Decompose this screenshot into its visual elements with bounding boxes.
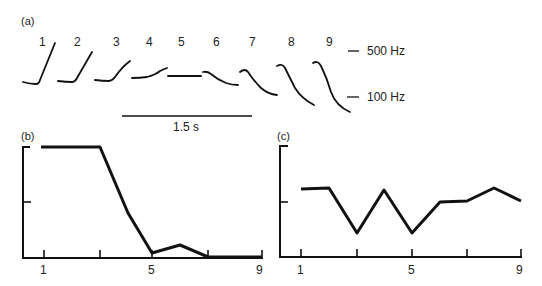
- contour-number-7: 7: [249, 35, 256, 49]
- hz-high-label: 500 Hz: [367, 44, 405, 58]
- panel-c-series-line: [301, 188, 521, 233]
- panel-c-label: (c): [277, 130, 290, 142]
- panel-c: (c) 1 5 9: [277, 130, 523, 277]
- contour-number-4: 4: [146, 35, 153, 49]
- contour-number-8: 8: [288, 35, 295, 49]
- panel-b-series-line: [41, 147, 262, 257]
- contour-2: [58, 52, 92, 82]
- contour-number-2: 2: [74, 35, 81, 49]
- contour-number-1: 1: [39, 35, 46, 49]
- panel-b-x-label-9: 9: [256, 263, 263, 277]
- contour-9: [313, 62, 350, 112]
- contour-3: [95, 61, 130, 81]
- time-scale-label: 1.5 s: [173, 120, 199, 134]
- contour-4: [132, 68, 167, 78]
- panel-b-label: (b): [21, 130, 34, 142]
- panel-a-label: (a): [21, 15, 34, 27]
- panel-b: (b) 1 5 9: [21, 130, 263, 277]
- hz-low-label: 100 Hz: [367, 90, 405, 104]
- contour-number-5: 5: [178, 35, 185, 49]
- panel-b-axes: [23, 147, 263, 258]
- panel-b-x-label-1: 1: [40, 263, 47, 277]
- figure: (a) 1 2 3 4 5 6 7 8 9 500 Hz 100 Hz 1.5 …: [0, 0, 542, 286]
- contour-7: [240, 70, 277, 95]
- panel-b-x-label-5: 5: [148, 263, 155, 277]
- contour-1: [23, 43, 55, 84]
- panel-c-x-label-5: 5: [408, 263, 415, 277]
- panel-a: (a) 1 2 3 4 5 6 7 8 9 500 Hz 100 Hz 1.5 …: [21, 15, 405, 134]
- contour-6: [203, 72, 238, 85]
- contour-number-6: 6: [213, 35, 220, 49]
- contour-number-9: 9: [326, 35, 333, 49]
- panel-c-x-label-9: 9: [516, 263, 523, 277]
- contour-8: [277, 65, 314, 105]
- contour-number-3: 3: [113, 35, 120, 49]
- panel-c-axes: [280, 146, 522, 257]
- panel-c-x-label-1: 1: [297, 263, 304, 277]
